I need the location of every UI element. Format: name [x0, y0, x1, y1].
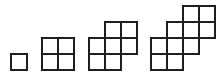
square-cell	[121, 38, 137, 54]
figure-2	[42, 38, 74, 70]
square-cell	[105, 38, 121, 54]
square-cell	[89, 38, 105, 54]
square-cell	[11, 54, 27, 70]
square-cell	[183, 22, 199, 38]
figure-4	[151, 6, 215, 70]
square-cell	[105, 22, 121, 38]
square-cell	[199, 6, 215, 22]
square-cell	[151, 54, 167, 70]
square-cell	[89, 54, 105, 70]
square-cell	[183, 38, 199, 54]
square-cell	[42, 54, 58, 70]
square-cell	[151, 38, 167, 54]
square-cell	[167, 22, 183, 38]
square-cell	[121, 22, 137, 38]
square-cell	[167, 54, 183, 70]
figure-3	[89, 22, 137, 70]
square-cell	[183, 6, 199, 22]
square-cell	[105, 54, 121, 70]
figure-1	[11, 54, 27, 70]
square-cell	[58, 54, 74, 70]
pattern-diagram	[0, 0, 223, 78]
square-cell	[199, 22, 215, 38]
square-cell	[58, 38, 74, 54]
square-cell	[167, 38, 183, 54]
square-cell	[42, 38, 58, 54]
